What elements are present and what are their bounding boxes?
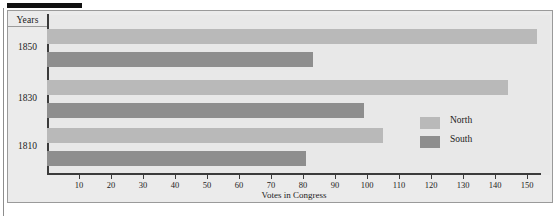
year-label-1810: 1810 — [8, 141, 47, 151]
x-tick-100 — [367, 175, 368, 179]
x-tick-60 — [239, 175, 240, 179]
x-tick-80 — [303, 175, 304, 179]
north-swatch — [420, 117, 440, 129]
x-tick-20 — [111, 175, 112, 179]
x-tick-label-60: 60 — [235, 180, 244, 190]
x-tick-140 — [495, 175, 496, 179]
x-tick-label-20: 20 — [107, 180, 116, 190]
south-swatch — [420, 136, 440, 148]
x-tick-label-90: 90 — [331, 180, 340, 190]
legend-label-north: North — [450, 115, 472, 125]
x-tick-30 — [143, 175, 144, 179]
x-tick-label-140: 140 — [489, 180, 502, 190]
legend-label-south: South — [450, 134, 472, 144]
x-tick-70 — [271, 175, 272, 179]
x-tick-110 — [399, 175, 400, 179]
bar-1810-north — [47, 128, 383, 143]
bar-1830-north — [47, 80, 508, 95]
legend: NorthSouth — [420, 115, 530, 153]
x-tick-label-150: 150 — [521, 180, 534, 190]
x-tick-label-70: 70 — [267, 180, 276, 190]
x-tick-90 — [335, 175, 336, 179]
x-tick-label-120: 120 — [425, 180, 438, 190]
legend-row-south: South — [420, 134, 530, 153]
x-tick-120 — [431, 175, 432, 179]
x-tick-label-30: 30 — [139, 180, 148, 190]
legend-row-north: North — [420, 115, 530, 134]
x-tick-label-110: 110 — [393, 180, 405, 190]
figure-chart-votes-in-congress: Years 185018301810 102030405060708090100… — [0, 0, 560, 216]
x-tick-label-80: 80 — [299, 180, 308, 190]
x-tick-label-130: 130 — [457, 180, 470, 190]
x-tick-130 — [463, 175, 464, 179]
year-label-1850: 1850 — [8, 42, 47, 52]
x-tick-10 — [79, 175, 80, 179]
bar-1810-south — [47, 151, 306, 166]
x-tick-label-40: 40 — [171, 180, 180, 190]
x-axis-title: Votes in Congress — [47, 190, 541, 200]
years-header-divider — [8, 26, 47, 27]
x-tick-150 — [527, 175, 528, 179]
x-axis-spine — [47, 173, 541, 175]
year-label-1830: 1830 — [8, 93, 47, 103]
bar-1850-south — [47, 52, 313, 67]
x-tick-50 — [207, 175, 208, 179]
x-tick-label-100: 100 — [361, 180, 374, 190]
x-tick-label-10: 10 — [75, 180, 84, 190]
left-margin-rule — [3, 8, 4, 216]
x-tick-label-50: 50 — [203, 180, 212, 190]
bar-1850-north — [47, 29, 537, 44]
top-rule-decoration — [7, 3, 82, 8]
y-axis-header: Years — [8, 15, 47, 25]
x-tick-40 — [175, 175, 176, 179]
bar-1830-south — [47, 103, 364, 118]
year-axis-labels: Years 185018301810 — [8, 11, 47, 173]
